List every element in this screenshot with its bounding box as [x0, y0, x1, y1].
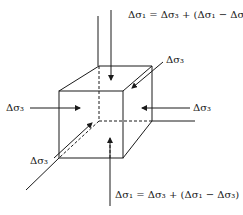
bottom-equation-label: Δσ₁ = Δσ₃ + (Δσ₁ − Δσ₃)	[115, 190, 239, 200]
front-sigma3-arrow	[54, 123, 92, 158]
right-sigma3-label: Δσ₃	[193, 103, 211, 113]
left-sigma3-label: Δσ₃	[6, 103, 24, 113]
back-sigma3-label: Δσ₃	[166, 55, 184, 65]
front-sigma3-label: Δσ₃	[30, 156, 48, 166]
top-equation-label: Δσ₁ = Δσ₃ + (Δσ₁ − Δσ₃)	[128, 10, 243, 20]
